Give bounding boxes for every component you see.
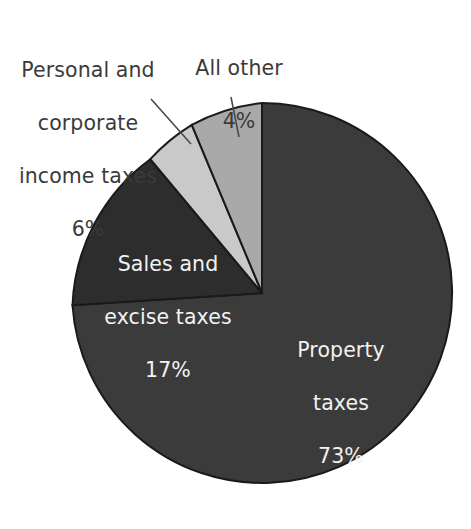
- slice-label-sales-and-excise-taxes: Sales and excise taxes 17%: [78, 224, 258, 410]
- slice-label-line-1: All other: [176, 55, 302, 82]
- slice-label-line-2: excise taxes: [78, 304, 258, 331]
- slice-label-line-1: Personal and: [2, 57, 174, 84]
- slice-label-line-2: taxes: [274, 390, 408, 417]
- slice-percent-sales-and-excise-taxes: 17%: [78, 357, 258, 384]
- slice-label-line-1: Sales and: [78, 251, 258, 278]
- slice-label-all-other: All other 4%: [176, 28, 302, 161]
- slice-label-line-3: income taxes: [2, 163, 174, 190]
- slice-label-line-2: corporate: [2, 110, 174, 137]
- pie-chart: Personal and corporate income taxes 6% A…: [0, 0, 471, 529]
- slice-label-line-1: Property: [274, 337, 408, 364]
- slice-percent-all-other: 4%: [176, 108, 302, 135]
- slice-label-property-taxes: Property taxes 73%: [274, 310, 408, 496]
- slice-percent-property-taxes: 73%: [274, 443, 408, 470]
